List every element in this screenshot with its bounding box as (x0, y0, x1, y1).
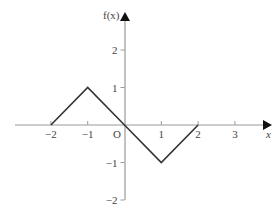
x-axis-label: x (265, 128, 271, 140)
y-axis-arrow-icon (120, 12, 130, 21)
function-graph: −2−1123 −2−112 O x f(x) (0, 0, 280, 217)
x-tick-label: 3 (232, 128, 238, 140)
x-tick-label: −1 (82, 128, 94, 140)
y-tick-label: 1 (112, 82, 118, 94)
y-tick-label: −2 (106, 194, 118, 206)
y-tick-label: −1 (106, 157, 118, 169)
y-tick-label: 2 (112, 44, 118, 56)
x-tick-label: 1 (159, 128, 165, 140)
x-ticks: −2−1123 (45, 121, 238, 140)
x-tick-label: −2 (45, 128, 57, 140)
y-axis-label: f(x) (103, 9, 120, 22)
origin-label: O (113, 128, 121, 140)
x-tick-label: 2 (195, 128, 201, 140)
